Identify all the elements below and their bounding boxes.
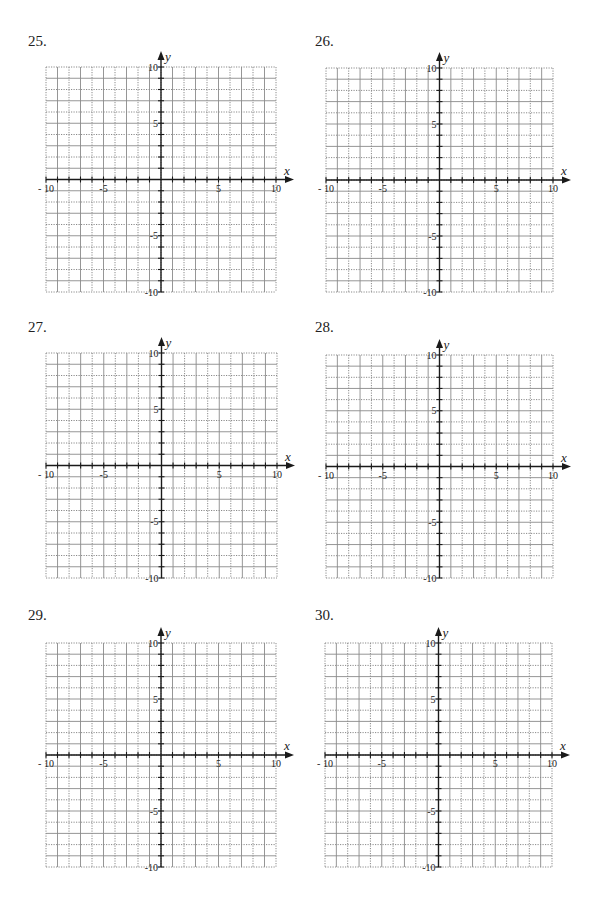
y-tick-label: -5	[150, 806, 158, 817]
x-tick-label: 10	[548, 183, 558, 194]
x-tick-label: - 10	[38, 758, 54, 769]
y-tick-label: -10	[423, 573, 436, 584]
y-tick-label: 10	[149, 348, 159, 359]
x-tick-label: - 10	[317, 758, 333, 769]
y-axis-label: y	[164, 335, 172, 350]
y-axis-arrow-icon	[158, 51, 165, 60]
x-tick-label: -5	[99, 183, 107, 194]
x-tick-label: 5	[216, 183, 221, 194]
x-axis-label: x	[284, 449, 291, 464]
x-tick-label: 5	[494, 470, 499, 481]
x-tick-label: 10	[271, 183, 281, 194]
y-tick-label: -10	[422, 862, 435, 873]
y-tick-label: -5	[427, 806, 435, 817]
y-tick-label: 5	[432, 405, 437, 416]
problem-number: 29.	[28, 608, 47, 623]
y-tick-label: -5	[428, 231, 436, 242]
x-axis-label: x	[283, 163, 290, 178]
y-axis-label: y	[163, 625, 171, 640]
y-axis-label: y	[442, 50, 450, 65]
axes	[46, 51, 294, 292]
coordinate-grid: - 10-5510105-5-10xy	[306, 48, 573, 312]
y-tick-label: -10	[145, 287, 158, 298]
x-tick-label: -5	[99, 758, 107, 769]
coordinate-grid: - 10-5510105-5-10xy	[305, 623, 572, 887]
y-tick-label: -10	[145, 862, 158, 873]
y-axis-label: y	[442, 337, 450, 352]
y-tick-label: 10	[427, 350, 437, 361]
y-tick-label: -10	[423, 287, 436, 298]
axes	[326, 52, 571, 292]
x-axis-label: x	[560, 450, 567, 465]
x-tick-label: 5	[216, 758, 221, 769]
coordinate-grid: - 10-5510105-5-10xy	[26, 333, 297, 598]
y-axis-arrow-icon	[435, 627, 442, 636]
x-tick-label: -5	[379, 183, 387, 194]
problem-number: 28.	[315, 320, 334, 335]
x-tick-label: 10	[271, 758, 281, 769]
y-tick-label: 5	[153, 118, 158, 129]
y-axis-arrow-icon	[436, 339, 443, 348]
y-tick-label: 10	[427, 63, 437, 74]
y-axis-label: y	[163, 49, 171, 64]
axes	[46, 627, 294, 867]
axes	[325, 627, 570, 867]
y-axis-label: y	[441, 625, 449, 640]
x-tick-label: 5	[494, 183, 499, 194]
coordinate-grid: - 10-5510105-5-10xy	[306, 335, 573, 598]
y-tick-label: 5	[153, 694, 158, 705]
y-axis-arrow-icon	[436, 52, 443, 61]
x-tick-label: 10	[272, 469, 282, 480]
x-tick-label: -5	[378, 758, 386, 769]
x-tick-label: -5	[100, 469, 108, 480]
x-axis-label: x	[283, 738, 290, 753]
x-tick-label: 5	[217, 469, 222, 480]
x-tick-label: - 10	[318, 183, 334, 194]
y-axis-arrow-icon	[158, 337, 165, 346]
x-tick-label: -5	[379, 470, 387, 481]
coordinate-grid: - 10-5510105-5-10xy	[26, 47, 296, 312]
y-tick-label: 5	[431, 694, 436, 705]
y-axis-arrow-icon	[158, 627, 165, 636]
axes	[46, 337, 295, 578]
y-tick-label: -5	[150, 230, 158, 241]
x-axis-label: x	[559, 738, 566, 753]
problem-number: 30.	[315, 608, 334, 623]
x-tick-label: - 10	[38, 469, 54, 480]
x-tick-label: 10	[548, 470, 558, 481]
x-tick-label: - 10	[38, 183, 54, 194]
x-tick-label: - 10	[318, 470, 334, 481]
y-tick-label: -5	[428, 517, 436, 528]
x-tick-label: 5	[493, 758, 498, 769]
y-tick-label: -5	[150, 516, 158, 527]
y-tick-label: -10	[145, 573, 158, 584]
y-tick-label: 10	[148, 62, 158, 73]
y-tick-label: 5	[432, 119, 437, 130]
coordinate-grid: - 10-5510105-5-10xy	[26, 623, 296, 887]
x-axis-label: x	[560, 163, 567, 178]
y-tick-label: 10	[426, 638, 436, 649]
y-tick-label: 10	[148, 638, 158, 649]
axes	[326, 339, 571, 578]
problem-number: 26.	[315, 34, 334, 49]
x-tick-label: 10	[547, 758, 557, 769]
y-tick-label: 5	[154, 404, 159, 415]
